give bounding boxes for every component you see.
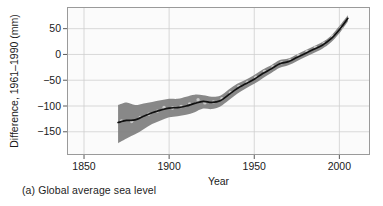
x-tick-label: 2000	[328, 160, 352, 172]
x-tick-label: 1950	[243, 160, 267, 172]
y-axis-title: Difference, 1961–1990 (mm)	[8, 14, 20, 147]
y-tick-label: −50	[43, 74, 61, 86]
data-point	[196, 98, 199, 101]
x-axis-title: Year	[208, 175, 230, 187]
y-tick-label: −100	[37, 100, 61, 112]
sea-level-chart: 500−50−100−1501850190019502000YearDiffer…	[0, 0, 383, 206]
y-tick-label: 50	[49, 22, 61, 34]
figure-container: 500−50−100−1501850190019502000YearDiffer…	[0, 0, 383, 206]
figure-caption: (a) Global average sea level	[22, 184, 156, 196]
plot-background	[67, 7, 370, 155]
x-tick-label: 1850	[72, 160, 96, 172]
x-tick-label: 1900	[157, 160, 181, 172]
y-tick-label: 0	[55, 48, 61, 60]
y-tick-label: −150	[37, 125, 61, 137]
